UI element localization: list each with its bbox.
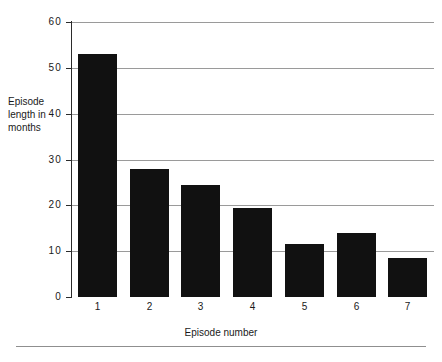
- gridline: [72, 205, 434, 206]
- y-axis-title-line-1: Episode: [8, 95, 66, 108]
- gridline: [72, 160, 434, 161]
- bar: [233, 208, 272, 297]
- plot-area: [72, 22, 434, 297]
- bar: [285, 244, 324, 297]
- y-axis-tick-label: 10: [22, 245, 62, 256]
- bar: [388, 258, 427, 297]
- x-axis-title: Episode number: [0, 327, 442, 338]
- y-axis-tick-label: 50: [22, 62, 62, 73]
- x-axis-tick-label: 2: [130, 301, 170, 312]
- bar: [78, 54, 117, 297]
- bar: [337, 233, 376, 297]
- y-axis-title-line-3: months: [8, 121, 66, 134]
- x-axis-tick-label: 3: [181, 301, 221, 312]
- gridline: [72, 114, 434, 115]
- footer-divider: [16, 346, 426, 347]
- x-axis-tick-label: 1: [78, 301, 118, 312]
- y-axis-tick-label: 0: [22, 291, 62, 302]
- x-axis-tick-label: 6: [337, 301, 377, 312]
- y-axis-tick-label: 60: [22, 16, 62, 27]
- y-axis-tick-label: 40: [22, 108, 62, 119]
- x-axis-tick-label: 4: [233, 301, 273, 312]
- bar-chart-figure: Episode length in months 0102030405060 1…: [0, 0, 442, 362]
- bar: [130, 169, 169, 297]
- y-axis-tick-label: 20: [22, 199, 62, 210]
- gridline: [72, 68, 434, 69]
- y-axis-tick-label: 30: [22, 154, 62, 165]
- bar: [181, 185, 220, 297]
- gridline: [72, 22, 434, 23]
- x-axis-tick-label: 7: [388, 301, 428, 312]
- x-axis-tick-label: 5: [285, 301, 325, 312]
- y-axis-tick-mark: [66, 297, 72, 298]
